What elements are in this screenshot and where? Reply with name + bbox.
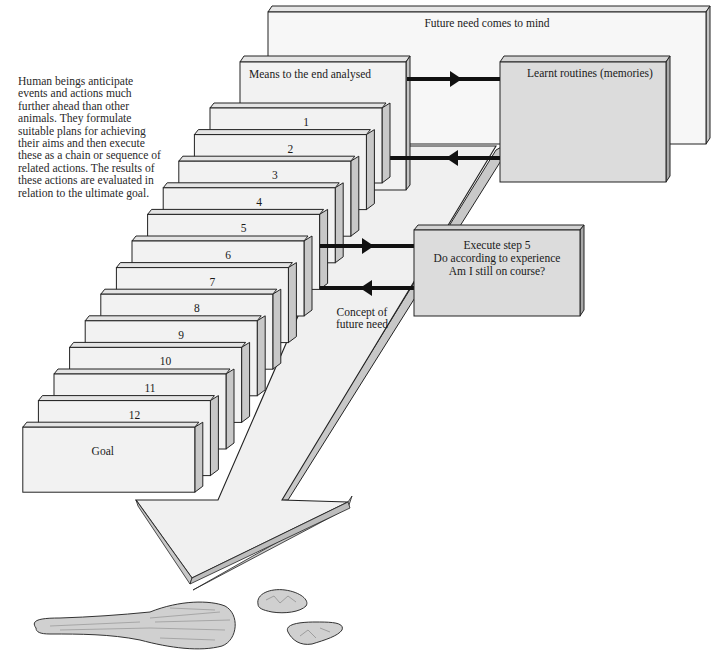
step-label: 9 — [178, 329, 184, 341]
goal-card: Goal — [23, 422, 203, 492]
step-label: 12 — [129, 409, 141, 421]
step-label: 6 — [225, 249, 231, 261]
step-label: 10 — [160, 355, 172, 367]
future-need-label: Future need comes to mind — [424, 17, 549, 29]
caption-text: Human beings anticipate events and actio… — [18, 76, 198, 200]
step-label: 11 — [144, 382, 155, 394]
goal-label: Goal — [92, 445, 114, 457]
caption-line: these actions are evaluated in — [18, 175, 198, 187]
execute-line-1: Execute step 5 — [463, 239, 530, 252]
caption-line: these as a chain or sequence of — [18, 150, 198, 162]
learnt-routines-label: Learnt routines (memories) — [527, 67, 653, 80]
execute-line-2: Do according to experience — [434, 252, 561, 265]
learnt-routines-panel: Learnt routines (memories) — [500, 56, 670, 182]
caption-line: events and actions much — [18, 88, 198, 100]
stone-fragment-lower-icon — [287, 622, 342, 644]
caption-line: relation to the ultimate goal. — [18, 188, 198, 200]
means-label: Means to the end analysed — [249, 68, 371, 81]
step-label: 4 — [256, 196, 262, 208]
step-label: 7 — [210, 276, 216, 288]
wooden-spoon-icon — [34, 602, 235, 649]
step-label: 1 — [303, 116, 309, 128]
execute-line-3: Am I still on course? — [449, 265, 545, 277]
caption-line: animals. They formulate — [18, 113, 198, 125]
step-label: 2 — [288, 143, 294, 155]
concept-line-2: future need — [336, 318, 388, 330]
step-label: 5 — [241, 222, 247, 234]
step-label: 8 — [194, 302, 200, 314]
step-label: 3 — [272, 169, 278, 181]
stone-fragment-upper-icon — [258, 590, 307, 613]
